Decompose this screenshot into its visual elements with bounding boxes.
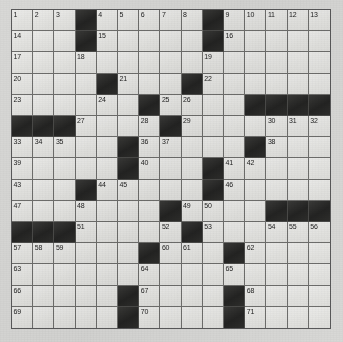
crossword-cell[interactable]	[309, 286, 330, 307]
crossword-cell[interactable]: 4	[97, 10, 118, 31]
crossword-cell[interactable]	[245, 264, 266, 285]
crossword-cell[interactable]	[245, 180, 266, 201]
crossword-cell[interactable]	[33, 180, 54, 201]
crossword-cell[interactable]	[160, 52, 181, 73]
crossword-cell[interactable]	[118, 52, 139, 73]
crossword-grid[interactable]: 1234567891011121314151617181920212223242…	[11, 9, 331, 329]
crossword-cell[interactable]	[97, 307, 118, 328]
crossword-cell[interactable]	[33, 201, 54, 222]
crossword-cell[interactable]	[224, 95, 245, 116]
crossword-cell[interactable]	[97, 52, 118, 73]
crossword-cell[interactable]	[224, 137, 245, 158]
crossword-cell[interactable]	[97, 222, 118, 243]
crossword-cell[interactable]	[245, 201, 266, 222]
crossword-cell[interactable]	[309, 74, 330, 95]
crossword-cell[interactable]: 26	[182, 95, 203, 116]
crossword-cell[interactable]	[288, 74, 309, 95]
crossword-cell[interactable]	[76, 74, 97, 95]
crossword-cell[interactable]: 66	[12, 286, 33, 307]
crossword-cell[interactable]: 10	[245, 10, 266, 31]
crossword-cell[interactable]	[76, 307, 97, 328]
crossword-cell[interactable]: 18	[76, 52, 97, 73]
crossword-cell[interactable]	[266, 264, 287, 285]
crossword-cell[interactable]	[182, 52, 203, 73]
crossword-cell[interactable]	[266, 52, 287, 73]
crossword-cell[interactable]	[266, 243, 287, 264]
crossword-cell[interactable]	[139, 52, 160, 73]
crossword-cell[interactable]	[309, 31, 330, 52]
crossword-cell[interactable]	[160, 74, 181, 95]
crossword-cell[interactable]: 71	[245, 307, 266, 328]
crossword-cell[interactable]: 47	[12, 201, 33, 222]
crossword-cell[interactable]	[182, 137, 203, 158]
crossword-cell[interactable]	[33, 264, 54, 285]
crossword-cell[interactable]: 16	[224, 31, 245, 52]
crossword-cell[interactable]: 60	[160, 243, 181, 264]
crossword-cell[interactable]	[182, 307, 203, 328]
crossword-cell[interactable]	[288, 158, 309, 179]
crossword-cell[interactable]	[97, 264, 118, 285]
crossword-cell[interactable]	[54, 264, 75, 285]
crossword-cell[interactable]	[33, 158, 54, 179]
crossword-cell[interactable]	[288, 31, 309, 52]
crossword-cell[interactable]	[309, 158, 330, 179]
crossword-cell[interactable]: 53	[203, 222, 224, 243]
crossword-cell[interactable]: 50	[203, 201, 224, 222]
crossword-cell[interactable]: 23	[12, 95, 33, 116]
crossword-cell[interactable]: 30	[266, 116, 287, 137]
crossword-cell[interactable]	[266, 74, 287, 95]
crossword-cell[interactable]	[54, 201, 75, 222]
crossword-cell[interactable]	[54, 52, 75, 73]
crossword-cell[interactable]	[97, 286, 118, 307]
crossword-cell[interactable]: 14	[12, 31, 33, 52]
crossword-cell[interactable]	[118, 116, 139, 137]
crossword-cell[interactable]	[288, 264, 309, 285]
crossword-cell[interactable]: 42	[245, 158, 266, 179]
crossword-cell[interactable]: 70	[139, 307, 160, 328]
crossword-cell[interactable]	[288, 286, 309, 307]
crossword-cell[interactable]: 41	[224, 158, 245, 179]
crossword-cell[interactable]: 20	[12, 74, 33, 95]
crossword-cell[interactable]: 61	[182, 243, 203, 264]
crossword-cell[interactable]: 64	[139, 264, 160, 285]
crossword-cell[interactable]	[266, 158, 287, 179]
crossword-cell[interactable]: 40	[139, 158, 160, 179]
crossword-cell[interactable]: 51	[76, 222, 97, 243]
crossword-cell[interactable]	[118, 222, 139, 243]
crossword-cell[interactable]	[160, 158, 181, 179]
crossword-cell[interactable]	[76, 264, 97, 285]
crossword-cell[interactable]	[33, 52, 54, 73]
crossword-cell[interactable]: 67	[139, 286, 160, 307]
crossword-cell[interactable]	[203, 95, 224, 116]
crossword-cell[interactable]	[309, 307, 330, 328]
crossword-cell[interactable]: 22	[203, 74, 224, 95]
crossword-cell[interactable]	[76, 137, 97, 158]
crossword-cell[interactable]	[76, 286, 97, 307]
crossword-cell[interactable]	[245, 116, 266, 137]
crossword-cell[interactable]	[182, 158, 203, 179]
crossword-cell[interactable]	[54, 180, 75, 201]
crossword-cell[interactable]	[33, 286, 54, 307]
crossword-cell[interactable]: 13	[309, 10, 330, 31]
crossword-cell[interactable]: 3	[54, 10, 75, 31]
crossword-cell[interactable]: 58	[33, 243, 54, 264]
crossword-cell[interactable]: 59	[54, 243, 75, 264]
crossword-cell[interactable]	[139, 74, 160, 95]
crossword-cell[interactable]: 5	[118, 10, 139, 31]
crossword-cell[interactable]: 43	[12, 180, 33, 201]
crossword-cell[interactable]	[33, 31, 54, 52]
crossword-cell[interactable]	[182, 286, 203, 307]
crossword-cell[interactable]: 25	[160, 95, 181, 116]
crossword-cell[interactable]: 55	[288, 222, 309, 243]
crossword-cell[interactable]	[266, 31, 287, 52]
crossword-cell[interactable]	[118, 264, 139, 285]
crossword-cell[interactable]: 49	[182, 201, 203, 222]
crossword-cell[interactable]: 29	[182, 116, 203, 137]
crossword-cell[interactable]	[118, 31, 139, 52]
crossword-cell[interactable]	[97, 137, 118, 158]
crossword-cell[interactable]	[54, 95, 75, 116]
crossword-cell[interactable]: 27	[76, 116, 97, 137]
crossword-cell[interactable]	[288, 137, 309, 158]
crossword-cell[interactable]	[266, 307, 287, 328]
crossword-cell[interactable]	[76, 158, 97, 179]
